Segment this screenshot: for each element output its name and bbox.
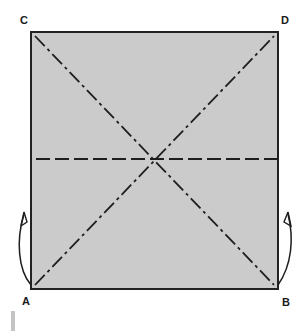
fold-arrow-left-icon bbox=[19, 212, 31, 285]
paper-square bbox=[31, 32, 278, 289]
gray-marker-bar bbox=[11, 311, 15, 331]
fold-arrow-right-icon bbox=[278, 212, 291, 285]
corner-label-top-left: C bbox=[20, 15, 28, 26]
corner-label-bottom-left: A bbox=[22, 296, 30, 307]
corner-label-top-right: D bbox=[281, 15, 289, 26]
corner-label-bottom-right: B bbox=[282, 297, 290, 308]
fold-diagram: C D A B bbox=[0, 0, 305, 334]
fold-diagram-svg bbox=[0, 0, 305, 334]
